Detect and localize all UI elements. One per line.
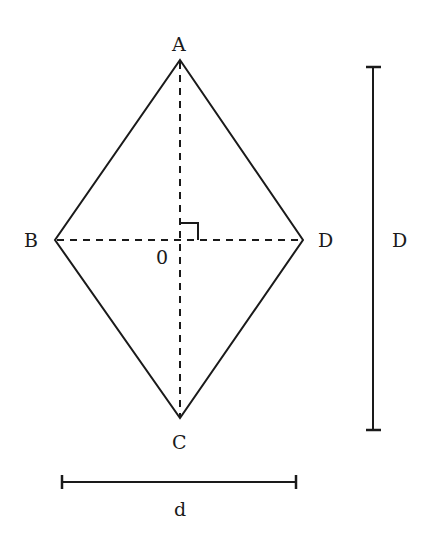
vertex-label-b: B (24, 229, 38, 251)
rhombus-diagram: A B C D 0 D d (0, 0, 431, 542)
vertex-label-d: D (318, 229, 333, 251)
right-angle-marker (180, 223, 198, 240)
long-diagonal-label: D (392, 229, 407, 251)
long-diagonal-dimension (366, 67, 381, 430)
center-label: 0 (156, 246, 168, 268)
vertex-label-c: C (172, 431, 187, 453)
vertex-label-a: A (171, 33, 186, 55)
short-diagonal-dimension (62, 475, 296, 489)
short-diagonal-label: d (174, 498, 186, 520)
